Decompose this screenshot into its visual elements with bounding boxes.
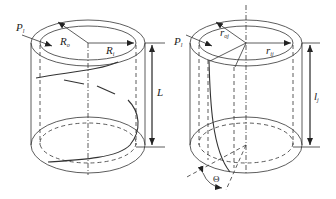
left-cylinder xyxy=(22,20,165,175)
label-lj: lj xyxy=(314,90,319,103)
label-L: L xyxy=(156,86,163,98)
label-Ro: Ro xyxy=(59,35,70,48)
helix-path xyxy=(36,62,118,78)
right-cylinder xyxy=(185,5,320,190)
cylinder-diagram: Pl Ro Ri L xyxy=(0,0,336,199)
label-rij: rij xyxy=(266,44,274,57)
label-Ri: Ri xyxy=(105,44,115,57)
figure: Pl Ro Ri L xyxy=(0,0,336,199)
label-P: Pl xyxy=(15,21,25,34)
label-P-right: Pl xyxy=(173,35,183,48)
label-theta: Θ xyxy=(213,174,220,184)
P-arrow xyxy=(22,35,52,46)
